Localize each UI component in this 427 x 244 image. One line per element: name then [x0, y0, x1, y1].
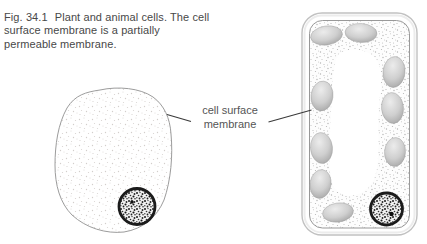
figure-34-1: Fig. 34.1Plant and animal cells. The cel…: [0, 0, 427, 244]
figure-caption: Fig. 34.1Plant and animal cells. The cel…: [4, 11, 212, 51]
animal-cell-nucleus: [119, 189, 155, 225]
plant-cell-nucleolus: [389, 212, 393, 216]
label-cell-surface-membrane: cell surface membrane: [186, 104, 274, 131]
plant-cell: [302, 13, 417, 235]
animal-cell-nucleolus: [130, 200, 134, 204]
plant-cell-nucleus: [371, 193, 403, 225]
animal-cell: [55, 88, 172, 232]
plant-cell-vacuole: [329, 50, 381, 196]
figure-number: Fig. 34.1: [4, 11, 48, 23]
